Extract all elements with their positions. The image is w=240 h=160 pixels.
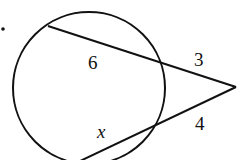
secant-diagram: 6 3 x 4: [0, 0, 240, 160]
secant-top: [48, 26, 236, 87]
label-outer-bottom: 4: [195, 113, 205, 134]
circle: [13, 12, 165, 160]
bullet-dot: [1, 27, 5, 31]
label-outer-top: 3: [194, 49, 204, 70]
label-inner-bottom: x: [96, 121, 106, 142]
label-inner-top: 6: [88, 52, 98, 73]
